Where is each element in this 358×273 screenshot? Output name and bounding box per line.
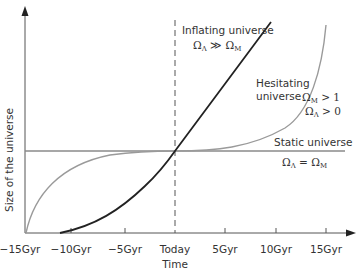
hesitating-universe-curve — [26, 25, 326, 233]
x-tick-label: −5Gyr — [108, 243, 143, 255]
universe-expansion-chart: −15Gyr −10Gyr −5Gyr Today 5Gyr 10Gyr 15G… — [0, 0, 358, 273]
inflating-universe-condition: ΩΛ ≫ ΩM — [193, 39, 241, 53]
x-tick-label: 10Gyr — [260, 243, 293, 255]
x-tick-label: −10Gyr — [51, 243, 93, 255]
static-universe-label: Static universe — [274, 136, 353, 148]
inflating-universe-curve — [60, 22, 271, 233]
x-axis-arrow-icon — [346, 230, 356, 237]
x-axis-title: Time — [161, 258, 188, 270]
y-axis-arrow-icon — [22, 6, 29, 16]
hesitating-universe-label-line1: Hesitating — [256, 77, 310, 89]
inflating-universe-label: Inflating universe — [182, 24, 274, 36]
x-tick-label: 5Gyr — [212, 243, 238, 255]
x-tick-label: 15Gyr — [310, 243, 343, 255]
hesitating-universe-condition-2: ΩΛ > 0 — [305, 105, 341, 119]
x-tick-label: Today — [159, 243, 190, 255]
static-universe-condition: ΩΛ = ΩM — [282, 156, 327, 170]
y-axis — [22, 6, 29, 233]
hesitating-universe-condition-1: ΩM > 1 — [302, 91, 340, 105]
x-tick-label: −15Gyr — [0, 243, 41, 255]
y-axis-title: Size of the universe — [3, 108, 15, 212]
hesitating-universe-label-line2: universe — [256, 90, 301, 102]
